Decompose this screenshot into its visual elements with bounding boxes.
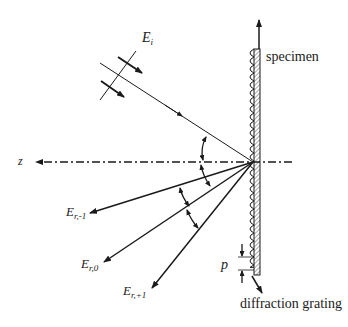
- diffraction-grating-label: diffraction grating: [240, 297, 342, 311]
- pitch-label: p: [221, 258, 228, 272]
- specimen-label: specimen: [266, 50, 319, 64]
- incident-field-label: Ei: [142, 31, 153, 47]
- diffraction-diagram: Ei z specimen Er,-1 Er,0 Er,+1 p diffrac…: [0, 0, 348, 327]
- reflected-order-minus1-label: Er,-1: [66, 205, 86, 221]
- angle-markers: [180, 137, 210, 228]
- reflected-rays: [90, 162, 262, 293]
- incident-ray: [100, 51, 253, 162]
- grating-profile: [250, 49, 254, 268]
- reflected-order-plus1-label: Er,+1: [123, 284, 146, 300]
- z-axis-label: z: [18, 155, 23, 167]
- reflected-order-0-label: Er,0: [81, 257, 98, 273]
